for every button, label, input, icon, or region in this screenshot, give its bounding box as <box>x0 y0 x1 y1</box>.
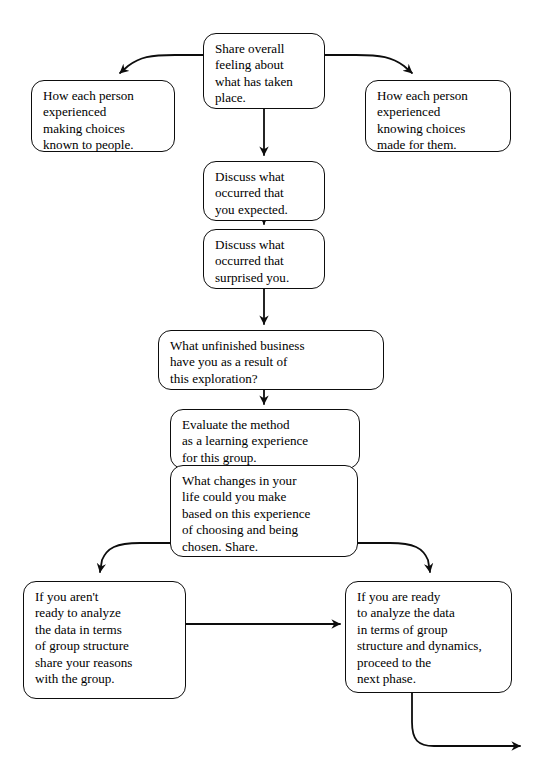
page-title <box>0 0 542 3</box>
node-discuss-what-surprised-you[interactable]: Discuss what occurred that surprised you… <box>203 229 325 289</box>
edge-are-ready-to-next-phase-exit <box>412 693 520 746</box>
flowchart-page: Share overall feeling about what has tak… <box>0 0 542 779</box>
node-if-you-are-ready[interactable]: If you are ready to analyze the data in … <box>345 581 512 693</box>
node-if-you-arent-ready[interactable]: If you aren't ready to analyze the data … <box>23 581 186 699</box>
node-how-each-person-knowing-choices[interactable]: How each person experienced knowing choi… <box>365 80 511 152</box>
node-what-changes-in-your-life[interactable]: What changes in your life could you make… <box>170 465 358 557</box>
node-evaluate-the-method[interactable]: Evaluate the method as a learning experi… <box>170 409 360 469</box>
node-what-unfinished-business[interactable]: What unfinished business have you as a r… <box>158 330 384 390</box>
node-how-each-person-making-choices[interactable]: How each person experienced making choic… <box>31 80 175 152</box>
edge-what-changes-to-are-ready <box>358 543 430 572</box>
node-share-overall[interactable]: Share overall feeling about what has tak… <box>203 33 325 109</box>
edge-what-changes-to-not-ready <box>100 543 170 572</box>
edge-share-to-left-making-choices <box>120 55 203 73</box>
node-discuss-what-you-expected[interactable]: Discuss what occurred that you expected. <box>203 161 325 221</box>
edge-share-to-right-knowing-choices <box>325 55 412 73</box>
